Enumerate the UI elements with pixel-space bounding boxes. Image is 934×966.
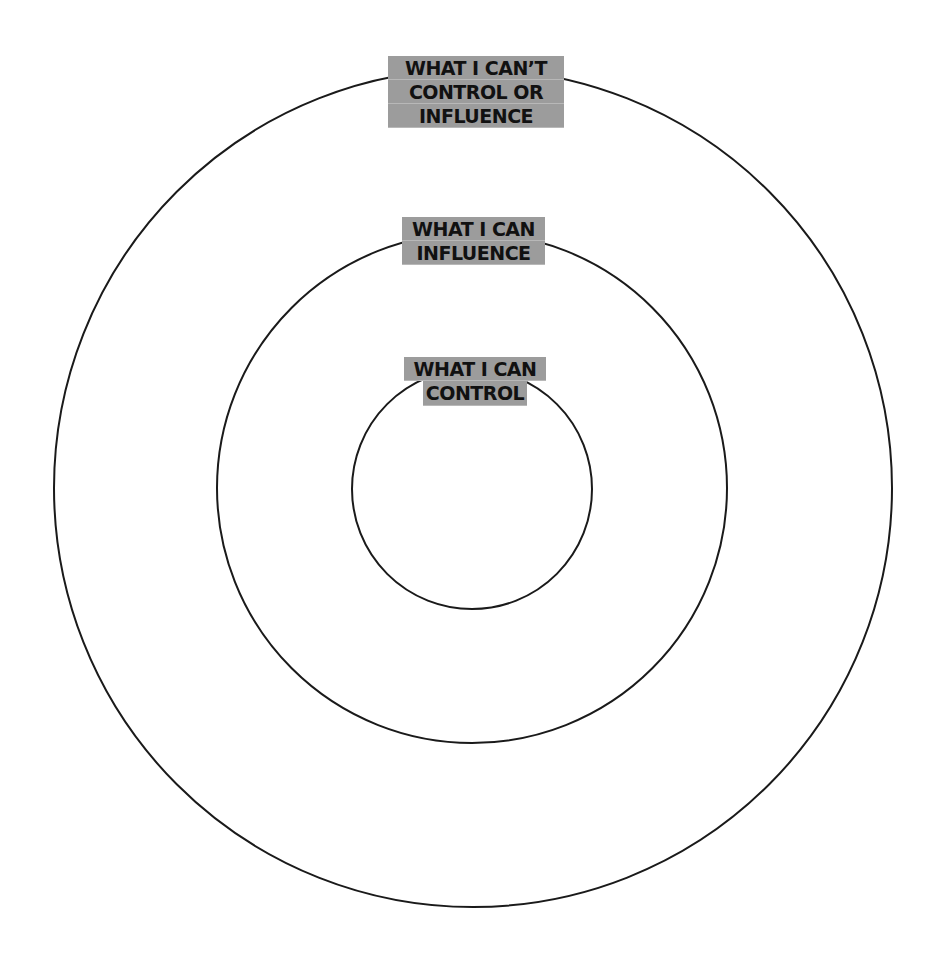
outer-label-line-1: WHAT I CAN’T <box>388 56 564 80</box>
circles-of-control-diagram: WHAT I CAN’T CONTROL OR INFLUENCE WHAT I… <box>0 0 934 966</box>
middle-ring-label: WHAT I CAN INFLUENCE <box>402 217 545 265</box>
inner-label-line-2: CONTROL <box>423 381 527 406</box>
outer-label-line-3: INFLUENCE <box>388 104 564 128</box>
inner-label-line-1: WHAT I CAN <box>404 357 546 381</box>
middle-label-line-2: INFLUENCE <box>402 241 545 265</box>
outer-ring-label: WHAT I CAN’T CONTROL OR INFLUENCE <box>388 56 564 128</box>
inner-ring-label: WHAT I CAN CONTROL <box>404 357 546 406</box>
outer-label-line-2: CONTROL OR <box>388 80 564 104</box>
middle-label-line-1: WHAT I CAN <box>402 217 545 241</box>
